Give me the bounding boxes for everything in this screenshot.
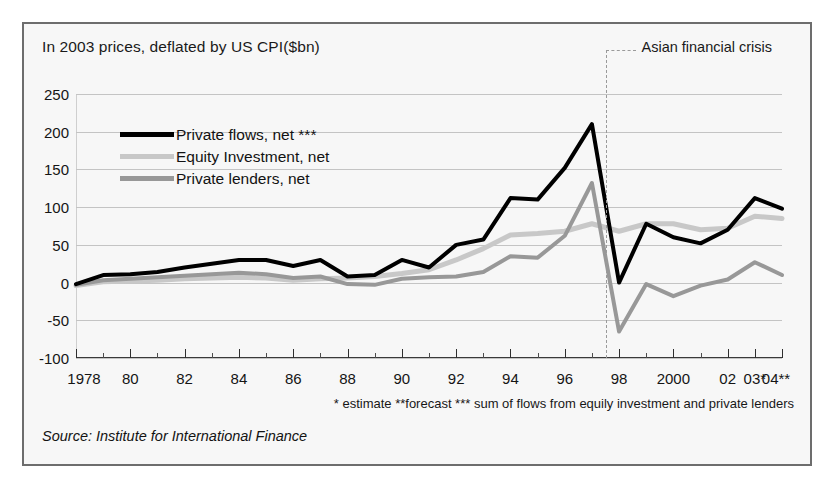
x-tick-label: 98 [611,370,628,387]
y-tick-label: 100 [44,199,69,216]
chart-title: In 2003 prices, deflated by US CPI($bn) [42,38,320,56]
x-tick-label: 04** [762,370,790,387]
x-tick-label: 92 [448,370,465,387]
x-tick-label: 90 [394,370,411,387]
x-tick-label: 84 [231,370,248,387]
y-tick-label: 0 [61,274,69,291]
chart-legend: Private flows, net ***Equity Investment,… [120,124,329,189]
x-tick-label: 86 [285,370,302,387]
legend-swatch [120,132,174,137]
legend-label: Private flows, net *** [176,126,316,144]
x-tick-label: 1978 [67,370,100,387]
x-tick-major [782,349,783,358]
legend-item: Private lenders, net [120,168,329,189]
x-tick-label: 96 [556,370,573,387]
x-tick-label: 02 [719,370,736,387]
x-tick-label: 94 [502,370,519,387]
x-tick-label: 88 [339,370,356,387]
x-tick-label: 80 [122,370,139,387]
chart-figure: In 2003 prices, deflated by US CPI($bn) … [22,22,812,466]
gridline [76,358,782,359]
x-tick-label: 82 [176,370,193,387]
legend-item: Private flows, net *** [120,124,329,145]
legend-label: Private lenders, net [176,170,310,188]
series-line [76,183,782,332]
chart-source: Source: Institute for International Fina… [42,428,307,444]
y-tick-label: 50 [52,236,69,253]
crisis-leader-line [606,50,636,51]
y-tick-label: 200 [44,123,69,140]
y-tick-label: 150 [44,161,69,178]
legend-swatch [120,154,174,159]
legend-swatch [120,176,174,181]
legend-item: Equity Investment, net [120,146,329,167]
chart-footnote: * estimate **forecast *** sum of flows f… [334,396,794,411]
y-tick-label: -50 [47,312,69,329]
crisis-marker-line [606,50,607,358]
legend-label: Equity Investment, net [176,148,329,166]
y-tick-label: 250 [44,86,69,103]
y-tick-label: -100 [39,350,69,367]
crisis-annotation-label: Asian financial crisis [642,39,773,55]
x-tick-label: 2000 [657,370,690,387]
